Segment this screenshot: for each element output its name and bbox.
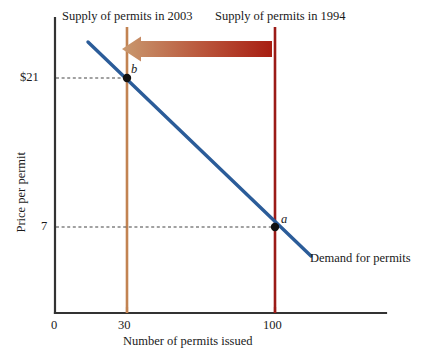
point-b-marker — [123, 74, 131, 82]
point-a-label: a — [281, 212, 287, 227]
point-a-marker — [271, 223, 279, 231]
chart-plot-area — [0, 0, 426, 354]
x-axis-title: Number of permits issued — [123, 335, 253, 348]
supply-1994-label: Supply of permits in 1994 — [215, 10, 346, 23]
xtick-label-0: 0 — [51, 319, 57, 332]
point-b-label: b — [131, 62, 137, 77]
xtick-label-100: 100 — [263, 319, 282, 332]
demand-curve-label: Demand for permits — [310, 252, 411, 265]
supply-2003-label: Supply of permits in 2003 — [62, 10, 193, 23]
economics-supply-demand-chart: Supply of permits in 2003 Supply of perm… — [0, 0, 426, 354]
ytick-label-21: $21 — [20, 71, 39, 84]
y-axis-title: Price per permit — [15, 137, 28, 247]
supply-shift-arrow — [122, 37, 272, 62]
ytick-label-7: 7 — [41, 220, 47, 233]
xtick-label-30: 30 — [118, 319, 131, 332]
